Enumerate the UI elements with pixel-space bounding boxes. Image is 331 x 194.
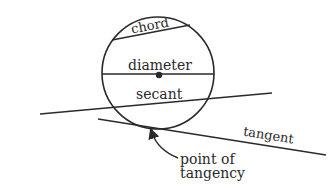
tangency-arrow [152,133,178,158]
diagram-canvas: chord diameter secant tangent point of t… [0,0,331,194]
point-of-tangency-label-line2: tangency [180,165,245,181]
secant-label: secant [136,86,183,102]
diameter-label: diameter [128,57,192,73]
circle-diagram: chord diameter secant tangent point of t… [0,0,331,194]
